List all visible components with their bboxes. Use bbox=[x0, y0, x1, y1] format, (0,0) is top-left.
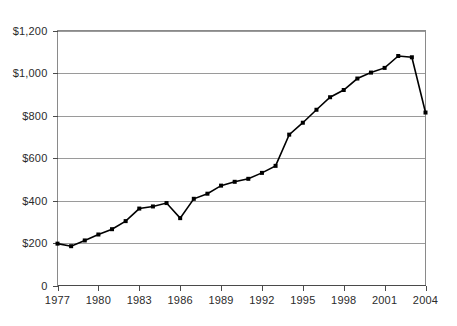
x-tick-label-1989: 1989 bbox=[208, 294, 233, 306]
data-point-1990 bbox=[233, 180, 237, 184]
data-point-1980 bbox=[96, 233, 100, 237]
y-tick-label-600: $600 bbox=[22, 152, 47, 164]
data-point-1999 bbox=[355, 77, 359, 81]
data-point-1995 bbox=[301, 121, 305, 125]
x-axis bbox=[58, 286, 427, 291]
x-tick-label-1998: 1998 bbox=[331, 294, 356, 306]
data-point-2004 bbox=[424, 111, 428, 115]
data-point-1989 bbox=[219, 184, 223, 188]
series-line-0 bbox=[58, 56, 426, 246]
data-point-1994 bbox=[287, 133, 291, 137]
data-point-1988 bbox=[205, 192, 209, 196]
data-point-1998 bbox=[342, 88, 346, 92]
data-point-1982 bbox=[124, 219, 128, 223]
data-point-markers bbox=[56, 54, 428, 248]
y-tick-label-200: $200 bbox=[22, 237, 47, 249]
y-tick-labels: 0$200$400$600$800$1,000$1,200 bbox=[13, 25, 48, 292]
data-point-2002 bbox=[396, 54, 400, 58]
y-tick-label-0: 0 bbox=[41, 280, 47, 292]
data-point-1992 bbox=[260, 171, 264, 175]
chart-canvas: 0$200$400$600$800$1,000$1,200 1977198019… bbox=[0, 0, 457, 326]
data-point-2001 bbox=[383, 66, 387, 70]
data-point-1981 bbox=[110, 227, 114, 231]
data-point-2000 bbox=[369, 71, 373, 75]
x-tick-label-1992: 1992 bbox=[249, 294, 274, 306]
data-point-1979 bbox=[83, 238, 87, 242]
y-tick-label-400: $400 bbox=[22, 195, 47, 207]
data-point-1984 bbox=[151, 204, 155, 208]
y-tick-label-1000: $1,000 bbox=[13, 67, 48, 79]
data-point-1983 bbox=[137, 207, 141, 211]
line-chart: 0$200$400$600$800$1,000$1,200 1977198019… bbox=[0, 0, 457, 326]
data-point-1993 bbox=[274, 164, 278, 168]
x-tick-labels: 1977198019831986198919921995199820012004 bbox=[45, 294, 438, 306]
gridlines-group bbox=[58, 32, 426, 244]
x-tick-label-2004: 2004 bbox=[413, 294, 438, 306]
data-point-1997 bbox=[328, 95, 332, 99]
x-tick-label-1986: 1986 bbox=[168, 294, 193, 306]
x-tick-label-2001: 2001 bbox=[372, 294, 397, 306]
y-tick-label-1200: $1,200 bbox=[13, 25, 48, 37]
data-point-1991 bbox=[246, 177, 250, 181]
data-point-1996 bbox=[314, 108, 318, 112]
y-tick-label-800: $800 bbox=[22, 110, 47, 122]
x-tick-label-1995: 1995 bbox=[290, 294, 315, 306]
x-tick-label-1977: 1977 bbox=[45, 294, 70, 306]
data-series-line bbox=[58, 56, 426, 246]
data-point-1978 bbox=[69, 244, 73, 248]
x-tick-label-1980: 1980 bbox=[86, 294, 111, 306]
data-point-1986 bbox=[178, 216, 182, 220]
data-point-2003 bbox=[410, 55, 414, 59]
data-point-1977 bbox=[56, 242, 60, 246]
data-point-1985 bbox=[165, 201, 169, 205]
x-tick-label-1983: 1983 bbox=[127, 294, 152, 306]
y-axis bbox=[53, 32, 58, 287]
data-point-1987 bbox=[192, 197, 196, 201]
